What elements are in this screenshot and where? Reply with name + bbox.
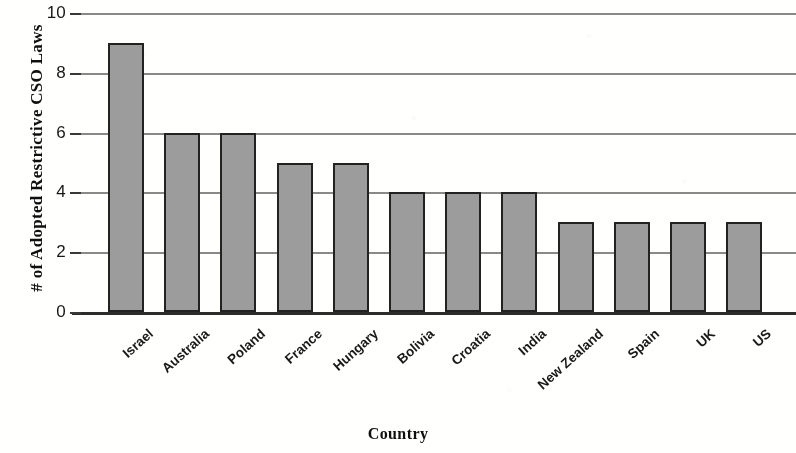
x-label-us: US — [750, 326, 774, 350]
y-tick-mark-8 — [70, 73, 81, 75]
x-label-israel: Israel — [120, 326, 156, 361]
bar-india — [501, 192, 537, 312]
x-label-uk: UK — [694, 326, 719, 350]
gridline-10 — [72, 13, 796, 15]
bar-france — [277, 163, 313, 313]
bar-israel — [108, 43, 144, 312]
x-label-australia: Australia — [159, 326, 212, 376]
y-tick-mark-6 — [70, 133, 81, 135]
bar-new-zealand — [558, 222, 594, 312]
y-axis-title: # of Adopted Restrictive CSO Laws — [27, 0, 47, 323]
x-axis-baseline — [72, 312, 796, 315]
bar-croatia — [445, 192, 481, 312]
x-label-spain: Spain — [624, 326, 661, 362]
x-label-bolivia: Bolivia — [394, 326, 437, 367]
bar-australia — [164, 133, 200, 312]
bar-hungary — [333, 163, 369, 313]
x-label-hungary: Hungary — [330, 326, 381, 374]
y-tick-mark-0 — [70, 312, 81, 314]
y-tick-mark-4 — [70, 192, 81, 194]
y-tick-mark-2 — [70, 252, 81, 254]
gridline-8 — [72, 73, 796, 75]
plot-area: 0246810 IsraelAustraliaPolandFranceHunga… — [0, 0, 796, 453]
x-label-france: France — [282, 326, 325, 367]
x-label-india: India — [516, 326, 549, 358]
x-label-croatia: Croatia — [449, 326, 494, 368]
x-axis-title: Country — [0, 425, 796, 443]
x-label-poland: Poland — [225, 326, 268, 367]
bar-bolivia — [389, 192, 425, 312]
y-tick-mark-10 — [70, 13, 81, 15]
bar-poland — [220, 133, 256, 312]
bar-us — [726, 222, 762, 312]
bar-uk — [670, 222, 706, 312]
chart-figure: 0246810 IsraelAustraliaPolandFranceHunga… — [0, 0, 796, 453]
bar-spain — [614, 222, 650, 312]
